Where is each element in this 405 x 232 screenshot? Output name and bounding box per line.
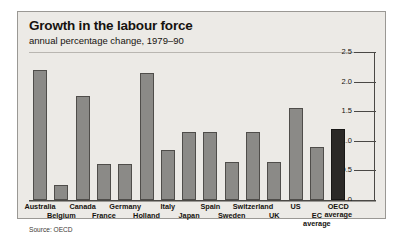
bar-oecd-average — [331, 129, 345, 200]
bar-spain — [203, 132, 217, 200]
x-axis-label: OECDaverage — [312, 203, 364, 220]
bar-australia — [33, 70, 47, 200]
bar-switzerland — [246, 132, 260, 200]
page-title: Growth in the labour force — [29, 18, 193, 33]
chart-subtitle: annual percentage change, 1979–90 — [29, 35, 184, 46]
bar-holland — [140, 73, 154, 200]
bar-ec-average — [310, 147, 324, 200]
chart-card: Growth in the labour force annual percen… — [17, 11, 386, 219]
bar-belgium — [54, 185, 68, 200]
x-axis-labels: AustraliaBelgiumCanadaFranceGermanyHolla… — [29, 202, 376, 228]
bar-sweden — [225, 162, 239, 200]
y-axis-line — [374, 52, 375, 201]
bar-us — [289, 108, 303, 200]
source-note: Source: OECD — [29, 226, 73, 232]
bar-france — [97, 164, 111, 200]
bar-japan — [182, 132, 196, 200]
y-axis-tick — [354, 170, 376, 171]
bar-series — [33, 52, 351, 200]
y-axis-tick — [354, 52, 376, 53]
bar-uk — [267, 162, 281, 200]
y-axis-tick — [354, 141, 376, 142]
y-axis-tick — [354, 111, 376, 112]
bar-germany — [118, 164, 132, 200]
plot-area: 00.51.01.52.02.5 — [29, 52, 376, 201]
bar-italy — [161, 150, 175, 200]
y-axis-tick — [354, 82, 376, 83]
bar-canada — [76, 96, 90, 200]
